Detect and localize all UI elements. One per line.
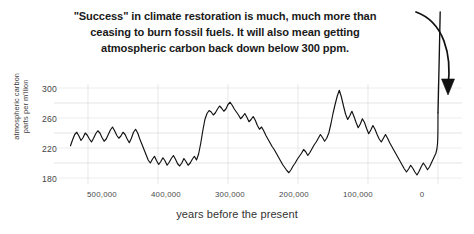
- downward-curved-arrow: [416, 12, 455, 95]
- arrow-shaft: [416, 12, 449, 86]
- plot-svg: [0, 0, 474, 234]
- arrow-head: [442, 79, 455, 95]
- modern-spike-line: [438, 12, 440, 113]
- chart-figure: "Success" in climate restoration is much…: [0, 0, 474, 234]
